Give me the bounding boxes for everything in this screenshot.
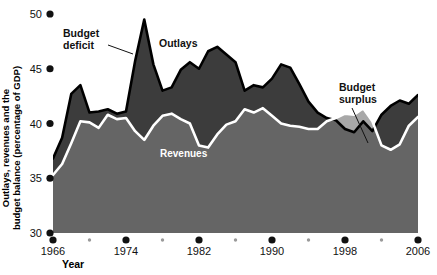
x-tick-label: 1990: [260, 245, 284, 257]
x-axis-ticks: 196619741982199019982006: [41, 236, 430, 257]
x-tick-label: 1998: [333, 245, 357, 257]
revenues-area: [53, 108, 418, 239]
y-tick-label: 35: [30, 172, 42, 184]
x-tick-label: 1982: [187, 245, 211, 257]
y-tick-label: 40: [30, 118, 42, 130]
annotation-budget-deficit-line2: deficit: [63, 39, 94, 51]
annotation-revenues: Revenues: [160, 148, 208, 159]
x-tick-dot: [341, 236, 348, 243]
x-minor-tick-dot: [234, 238, 237, 241]
y-tick-dot: [46, 65, 53, 72]
annotation-outlays: Outlays: [159, 37, 198, 49]
x-tick-dot: [49, 236, 56, 243]
annotation-budget-surplus-line1: Budget: [339, 81, 376, 93]
y-tick-dot: [46, 10, 53, 17]
x-tick-dot: [414, 236, 421, 243]
y-axis-title: Outlays, revenues and the budget balance…: [0, 66, 22, 230]
y-axis-title-line1: Outlays, revenues and the: [0, 89, 11, 207]
y-tick-dot: [46, 120, 53, 127]
x-tick-dot: [195, 236, 202, 243]
y-tick-label: 30: [30, 227, 42, 239]
x-minor-tick-dot: [307, 238, 310, 241]
x-minor-tick-dot: [380, 238, 383, 241]
y-tick-dot: [46, 229, 53, 236]
annotation-budget-surplus-line2: surplus: [339, 93, 377, 105]
x-tick-label: 1966: [41, 245, 65, 257]
y-axis-ticks: 3035404550: [30, 8, 54, 239]
y-axis-title-line2: budget balance (percentage of GDP): [11, 66, 22, 230]
x-tick-label: 2006: [406, 245, 430, 257]
budget-area-chart: 3035404550 196619741982199019982006 Outl…: [0, 0, 437, 275]
chart-figure: 3035404550 196619741982199019982006 Outl…: [0, 0, 437, 275]
y-tick-dot: [46, 175, 53, 182]
x-minor-tick-dot: [88, 238, 91, 241]
x-minor-tick-dot: [161, 238, 164, 241]
x-tick-label: 1974: [114, 245, 138, 257]
y-tick-label: 50: [30, 8, 42, 20]
y-tick-label: 45: [30, 63, 42, 75]
annotation-budget-deficit-line1: Budget: [63, 27, 100, 39]
x-tick-dot: [122, 236, 129, 243]
x-axis-title: Year: [62, 258, 84, 270]
x-tick-dot: [268, 236, 275, 243]
